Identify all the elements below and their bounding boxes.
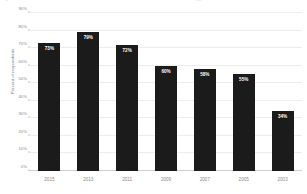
- bar-series: 73%79%72%60%58%55%34%: [30, 13, 302, 171]
- y-axis-tick-label: 40%: [18, 93, 27, 98]
- header-artifact-right-icon: ▫▫: [196, 0, 202, 4]
- bar-slot: 60%: [147, 13, 186, 171]
- bar-slot: 73%: [30, 13, 69, 171]
- bar[interactable]: 79%: [77, 32, 99, 171]
- bar[interactable]: 72%: [116, 45, 138, 171]
- bar-slot: 72%: [108, 13, 147, 171]
- bar[interactable]: 34%: [272, 111, 294, 171]
- chart-screenshot: ▫ ▫▫ Percent of respondents 90%80%70%60%…: [0, 0, 307, 194]
- header-artifact-left-icon: ▫: [5, 0, 8, 4]
- bar-slot: 34%: [263, 13, 302, 171]
- cropped-header-artifacts: ▫ ▫▫: [0, 0, 307, 7]
- x-axis-category-label: 2003: [263, 177, 302, 183]
- y-axis-tick-label: 0%: [21, 164, 27, 169]
- bar-value-label: 73%: [45, 46, 54, 52]
- y-axis-tick-label: 90%: [18, 6, 27, 11]
- bar-slot: 58%: [185, 13, 224, 171]
- bar-value-label: 79%: [84, 35, 93, 41]
- x-axis-category-label: 2013: [69, 177, 108, 183]
- bar[interactable]: 60%: [155, 66, 177, 171]
- y-axis-tick-label: 10%: [18, 146, 27, 151]
- bar[interactable]: 55%: [233, 74, 255, 171]
- y-axis-tick-label: 20%: [18, 128, 27, 133]
- y-axis-tick-label: 70%: [18, 41, 27, 46]
- x-axis-category-label: 2011: [108, 177, 147, 183]
- bar-slot: 79%: [69, 13, 108, 171]
- x-axis-category-label: 2005: [224, 177, 263, 183]
- y-axis-tick-label: 50%: [18, 76, 27, 81]
- bar-value-label: 60%: [161, 69, 170, 75]
- bar-value-label: 72%: [123, 48, 132, 54]
- y-axis-tick-label: 30%: [18, 111, 27, 116]
- y-axis-tick-label: 80%: [18, 23, 27, 28]
- bar-value-label: 34%: [278, 114, 287, 120]
- y-axis-tick-label: 60%: [18, 58, 27, 63]
- x-axis-category-label: 2015: [30, 177, 69, 183]
- plot-area: 90%80%70%60%50%40%30%20%10%0% 73%79%72%6…: [30, 13, 302, 171]
- bar-chart-figure: Percent of respondents 90%80%70%60%50%40…: [0, 7, 307, 194]
- bar[interactable]: 58%: [194, 69, 216, 171]
- bar-value-label: 58%: [200, 72, 209, 78]
- bar-slot: 55%: [224, 13, 263, 171]
- bar-value-label: 55%: [239, 77, 248, 83]
- x-axis-category-label: 2009: [147, 177, 186, 183]
- x-axis-labels: 2015201320112009200720052003: [30, 177, 302, 183]
- x-axis-category-label: 2007: [185, 177, 224, 183]
- bar[interactable]: 73%: [38, 43, 60, 171]
- y-axis-title: Percent of respondents: [10, 27, 15, 117]
